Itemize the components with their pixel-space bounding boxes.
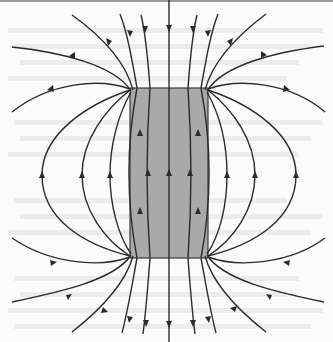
- field-line-side-left-1: [42, 90, 130, 256]
- field-line-bottom-8: [207, 255, 324, 302]
- arrow-down-icon: [166, 321, 172, 328]
- arrow-up-icon: [293, 171, 299, 178]
- field-line-side-right-3: [207, 92, 227, 254]
- field-line-side-left-3: [110, 92, 131, 254]
- arrow-down-icon: [127, 316, 133, 323]
- field-line-loop-upper-right: [208, 83, 325, 112]
- arrow-down-icon: [127, 30, 133, 37]
- field-line-top-1: [141, 15, 150, 88]
- field-line-loop-upper-left: [12, 83, 130, 112]
- field-line-side-right-2: [208, 90, 255, 256]
- arrow-down-icon: [142, 26, 148, 33]
- arrow-left-icon: [47, 85, 54, 92]
- arrow-down-icon: [205, 30, 211, 37]
- field-line-bottom-5: [72, 256, 133, 332]
- arrow-up-icon: [224, 171, 230, 178]
- arrow-down-icon: [205, 316, 211, 323]
- arrow-down-icon: [66, 294, 72, 300]
- field-line-diagram: [0, 0, 333, 342]
- arrow-down-icon: [230, 306, 237, 312]
- arrow-up-icon: [79, 171, 85, 178]
- arrow-up-icon: [252, 171, 258, 178]
- arrow-down-icon: [101, 307, 108, 313]
- arrow-up-icon: [107, 171, 113, 178]
- field-line-bottom-6: [205, 256, 266, 332]
- arrow-down-icon: [266, 294, 272, 300]
- arrow-up-icon: [39, 171, 45, 178]
- field-line-top-2: [188, 15, 197, 88]
- figure-canvas: [0, 0, 333, 342]
- field-line-side-right-1: [208, 90, 296, 256]
- arrow-down-icon: [190, 26, 196, 33]
- field-line-side-left-2: [82, 90, 130, 256]
- arrow-down-icon: [190, 320, 196, 327]
- arrow-right-icon: [50, 260, 57, 266]
- arrow-down-icon: [166, 25, 172, 32]
- arrow-left-icon: [283, 260, 290, 266]
